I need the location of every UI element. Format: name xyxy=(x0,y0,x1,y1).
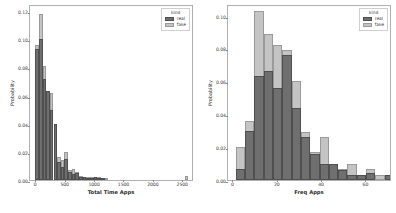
y-tick-label: 0.06 xyxy=(18,95,28,100)
legend-right[interactable]: kind real fake xyxy=(359,8,388,31)
histogram-bar xyxy=(347,175,356,180)
y-tick-label: 0.00 xyxy=(216,180,226,185)
y-tick-mark xyxy=(28,182,30,183)
histogram-bar xyxy=(254,76,263,180)
y-tick-mark xyxy=(226,116,228,117)
legend-swatch-real-icon xyxy=(363,17,372,21)
legend-item-fake[interactable]: fake xyxy=(363,23,384,27)
x-tick-label: 20 xyxy=(274,183,280,188)
plot-area-left xyxy=(30,6,192,180)
y-axis-label-left: Probability xyxy=(9,80,15,106)
histogram-bar xyxy=(282,55,291,180)
legend-item-fake[interactable]: fake xyxy=(165,23,186,27)
x-tick-label: 2000 xyxy=(147,183,158,188)
chart-panel-freq-apps: Probability Freq Apps kind real fake 0.0… xyxy=(198,0,396,213)
y-tick-mark xyxy=(226,50,228,51)
x-tick-mark xyxy=(232,180,233,182)
histogram-bar xyxy=(366,173,375,180)
x-axis-label-left: Total Time Apps xyxy=(88,189,135,195)
legend-label-real: real xyxy=(375,17,383,21)
histogram-bar xyxy=(301,137,310,180)
x-tick-mark xyxy=(153,180,154,182)
x-tick-mark xyxy=(321,180,322,182)
histogram-bar xyxy=(329,164,338,180)
y-tick-label: 0.04 xyxy=(18,123,28,128)
y-tick-mark xyxy=(28,69,30,70)
histogram-bar xyxy=(338,170,347,180)
legend-swatch-fake-icon xyxy=(363,23,372,27)
legend-label-fake: fake xyxy=(177,23,186,27)
y-tick-label: 0.02 xyxy=(18,152,28,157)
figure-canvas: Probability Total Time Apps kind real fa… xyxy=(0,0,396,213)
y-tick-mark xyxy=(28,154,30,155)
y-tick-label: 0.06 xyxy=(216,81,226,86)
x-tick-label: 0 xyxy=(34,183,37,188)
legend-swatch-fake-icon xyxy=(165,23,174,27)
y-tick-label: 0.08 xyxy=(216,48,226,53)
legend-swatch-real-icon xyxy=(165,17,174,21)
y-tick-label: 0.10 xyxy=(216,15,226,20)
histogram-bar xyxy=(310,154,319,180)
x-tick-label: 40 xyxy=(318,183,324,188)
x-tick-label: 2500 xyxy=(177,183,188,188)
x-tick-mark xyxy=(123,180,124,182)
histogram-bar xyxy=(385,175,390,180)
y-tick-mark xyxy=(28,126,30,127)
y-tick-label: 0.10 xyxy=(18,39,28,44)
legend-title: kind xyxy=(165,11,186,15)
y-axis-label-right: Probability xyxy=(207,80,213,106)
x-tick-label: 0 xyxy=(231,183,234,188)
histogram-bar xyxy=(273,88,282,180)
x-tick-label: 1500 xyxy=(118,183,129,188)
x-tick-mark xyxy=(65,180,66,182)
y-tick-mark xyxy=(226,182,228,183)
y-tick-label: 0.12 xyxy=(18,11,28,16)
y-tick-label: 0.02 xyxy=(216,147,226,152)
histogram-bar xyxy=(236,169,245,181)
legend-title: kind xyxy=(363,11,384,15)
legend-label-fake: fake xyxy=(375,23,384,27)
y-tick-mark xyxy=(28,98,30,99)
y-tick-label: 0.04 xyxy=(216,114,226,119)
y-tick-mark xyxy=(226,18,228,19)
x-tick-label: 500 xyxy=(60,183,68,188)
legend-item-real[interactable]: real xyxy=(165,17,186,21)
x-tick-mark xyxy=(365,180,366,182)
x-tick-label: 1000 xyxy=(88,183,99,188)
y-tick-mark xyxy=(226,83,228,84)
legend-label-real: real xyxy=(177,17,185,21)
y-tick-mark xyxy=(226,149,228,150)
chart-panel-total-time-apps: Probability Total Time Apps kind real fa… xyxy=(0,0,198,213)
y-tick-label: 0.00 xyxy=(18,180,28,185)
histogram-bar xyxy=(320,164,329,180)
axes-left: Probability Total Time Apps kind real fa… xyxy=(29,5,193,181)
histogram-bar xyxy=(185,176,189,180)
x-tick-mark xyxy=(94,180,95,182)
y-tick-mark xyxy=(28,41,30,42)
histogram-bar xyxy=(101,178,105,180)
histogram-bar xyxy=(245,131,254,180)
legend-left[interactable]: kind real fake xyxy=(161,8,190,31)
plot-area-right xyxy=(228,6,390,180)
y-tick-label: 0.08 xyxy=(18,67,28,72)
histogram-bar xyxy=(105,178,109,180)
x-axis-label-right: Freq Apps xyxy=(294,189,323,195)
x-tick-label: 60 xyxy=(363,183,369,188)
histogram-bar xyxy=(375,175,384,180)
x-tick-mark xyxy=(182,180,183,182)
axes-right: Probability Freq Apps kind real fake 0.0… xyxy=(227,5,391,181)
x-tick-mark xyxy=(35,180,36,182)
x-tick-mark xyxy=(277,180,278,182)
histogram-bar xyxy=(264,71,273,180)
histogram-bar xyxy=(292,108,301,180)
y-tick-mark xyxy=(28,13,30,14)
legend-item-real[interactable]: real xyxy=(363,17,384,21)
